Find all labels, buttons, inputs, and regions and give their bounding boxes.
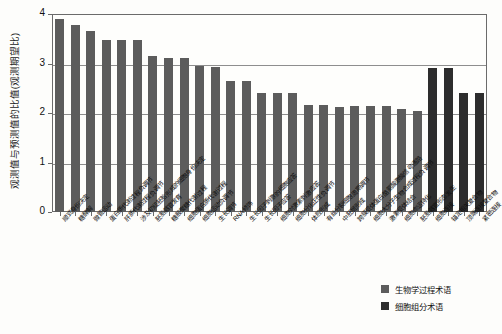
legend-label-bp: 生物学过程术语 (395, 283, 451, 295)
legend-swatch-bp (381, 285, 389, 293)
legend: 生物学过程术语 细胞组分术语 (381, 283, 451, 317)
legend-label-cc: 细胞组分术语 (395, 300, 443, 312)
legend-swatch-cc (381, 302, 389, 310)
legend-item-cc: 细胞组分术语 (381, 300, 451, 312)
legend-item-bp: 生物学过程术语 (381, 283, 451, 295)
